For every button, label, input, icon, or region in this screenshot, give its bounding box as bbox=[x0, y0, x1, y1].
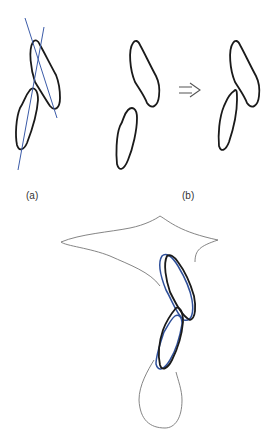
upper-shape-a bbox=[30, 40, 60, 109]
panel-b-before bbox=[116, 41, 159, 169]
panel-b-after bbox=[219, 41, 260, 150]
upper-shape-b1 bbox=[130, 41, 159, 107]
lower-shape-b2 bbox=[219, 90, 237, 150]
silhouette-outline bbox=[61, 216, 218, 428]
overlay-figure bbox=[61, 216, 218, 428]
arrow-icon bbox=[179, 83, 200, 97]
panel-a-label: (a) bbox=[26, 190, 38, 201]
upper-shape-b2 bbox=[230, 41, 259, 107]
panel-b-label: (b) bbox=[182, 190, 194, 201]
lower-shape-b1 bbox=[116, 108, 137, 169]
panel-a bbox=[16, 18, 60, 170]
diagram-canvas bbox=[0, 0, 268, 439]
